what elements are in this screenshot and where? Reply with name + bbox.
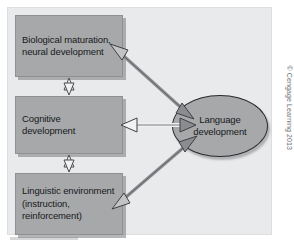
figure-diagram: Biological maturation, neural developmen… [0,0,294,250]
node-linguistic-environment-label: Linguistic environment (instruction, rei… [16,185,122,223]
node-linguistic-environment: Linguistic environment (instruction, rei… [15,173,123,235]
bottom-edge-artifact [10,237,78,240]
node-cognitive-development-label: Cognitive development [16,113,122,138]
node-biological-maturation: Biological maturation, neural developmen… [15,15,123,77]
node-language-development-label: Language development [173,114,267,139]
node-biological-maturation-label: Biological maturation, neural developmen… [16,34,122,59]
node-cognitive-development: Cognitive development [15,96,123,154]
copyright-credit: © Cengage Learning 2013 [286,65,293,150]
node-language-development: Language development [172,95,268,157]
